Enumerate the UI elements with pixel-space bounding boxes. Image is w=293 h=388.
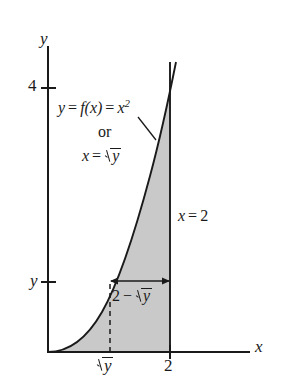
curve-eq-function: f(x): [80, 99, 102, 116]
curve-eq-lhs: y: [58, 99, 65, 116]
sqrt-symbol-icon: y: [135, 288, 152, 304]
vertical-line-label: x=2: [178, 208, 208, 224]
curve-equation-label: y=f(x)=x2: [58, 98, 130, 116]
vline-equals: =: [188, 207, 197, 224]
vline-rhs: 2: [200, 207, 208, 224]
sqrt-symbol-icon: y: [104, 148, 121, 164]
sqrt-symbol-icon: y: [96, 357, 114, 374]
curve-eq-exponent: 2: [124, 97, 129, 109]
width-lhs: 2: [112, 287, 120, 304]
x-axis-label: x: [255, 338, 263, 355]
x-tick-label-sqrt-y: y: [96, 357, 114, 374]
or-connector-label: or: [98, 124, 111, 140]
inverse-eq-radicand: y: [111, 148, 121, 164]
sqrt-radicand: y: [103, 357, 114, 374]
inverse-eq-lhs: x: [82, 147, 89, 164]
curve-eq-equals-2: =: [105, 99, 114, 116]
leader-line: [138, 117, 156, 140]
width-measure-label: 2−y: [112, 288, 152, 304]
y-tick-label-4: 4: [28, 77, 37, 94]
figure-canvas: y x 4 y y 2 y=f(x)=x2 or x=y x=2 2−y: [0, 0, 293, 388]
width-minus-sign: −: [123, 287, 132, 304]
curve-eq-equals-1: =: [68, 99, 77, 116]
y-axis-label: y: [40, 30, 48, 47]
width-radicand: y: [142, 288, 152, 304]
inverse-eq-equals: =: [92, 147, 101, 164]
x-tick-label-2: 2: [164, 357, 173, 374]
y-tick-label-y: y: [30, 272, 38, 289]
vline-lhs: x: [178, 207, 185, 224]
plot-svg: [0, 0, 293, 388]
inverse-equation-label: x=y: [82, 148, 121, 164]
